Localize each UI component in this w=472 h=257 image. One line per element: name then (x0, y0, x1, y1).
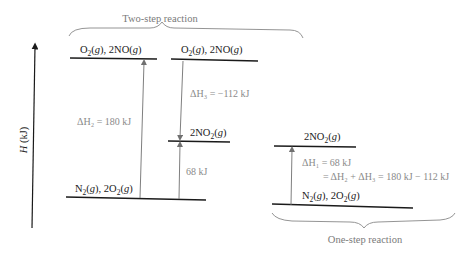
one-step-brace (272, 213, 455, 228)
net-label: 68 kJ (186, 166, 208, 177)
two-step-caption: Two-step reaction (122, 13, 198, 24)
level-top-left-label: O2(g), 2NO(g) (80, 44, 142, 58)
one-step-caption: One-step reaction (328, 234, 403, 245)
arrow-dH1 (291, 149, 292, 205)
level-bottom (66, 197, 206, 200)
level-mid (168, 141, 230, 142)
dH1-label-line1: ΔH₁ = 68 kJ (302, 157, 351, 168)
two-step-brace (69, 22, 303, 38)
one-step-top-label: 2NO2(g) (304, 131, 341, 145)
level-top-right (171, 59, 258, 61)
enthalpy-axis (32, 46, 35, 228)
level-mid-label: 2NO2(g) (190, 127, 227, 141)
level-bottom-label: N2(g), 2O2(g) (75, 183, 133, 197)
one-step-level-bottom (272, 204, 413, 208)
axis-label: H (kJ) (18, 126, 30, 154)
dH1-label-line2: = ΔH₂ + ΔH₃ = 180 kJ − 112 kJ (323, 171, 449, 182)
level-top-left (70, 58, 157, 59)
arrow-dH2 (140, 62, 144, 198)
dH2-label: ΔH₂ = 180 kJ (77, 116, 131, 127)
arrow-dH3 (180, 61, 183, 138)
level-top-right-label: O2(g), 2NO(g) (181, 44, 243, 58)
arrow-net (179, 144, 180, 199)
one-step-level-top (274, 146, 356, 147)
dH3-label: ΔH₃ = −112 kJ (190, 88, 250, 99)
one-step-bottom-label: N2(g), 2O2(g) (302, 190, 360, 204)
enthalpy-diagram: H (kJ) Two-step reaction O2(g), 2NO(g) O… (0, 0, 472, 257)
